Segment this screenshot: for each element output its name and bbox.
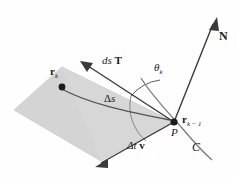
tangent-vector-arrowhead bbox=[80, 61, 93, 72]
figure-container: N ds T θk rk Δs rk − 1 P Δt v C bbox=[0, 0, 237, 179]
arc-length-label-s: s bbox=[111, 92, 115, 104]
point-p-marker bbox=[170, 118, 177, 125]
tangent-vector-label-t: T bbox=[115, 54, 122, 66]
curve-label-text: C bbox=[192, 140, 200, 154]
velocity-vector-label: Δt v bbox=[127, 140, 145, 151]
normal-vector-label-text: N bbox=[219, 29, 228, 43]
angle-label: θk bbox=[154, 62, 162, 76]
angle-arc bbox=[131, 80, 160, 96]
point-rk-label: rk bbox=[50, 66, 58, 80]
point-p-label: P bbox=[171, 127, 178, 138]
normal-vector-arrowhead bbox=[209, 17, 219, 31]
angle-label-subscript: k bbox=[159, 68, 162, 75]
point-rk1-label-subscript: k − 1 bbox=[187, 120, 201, 127]
normal-vector-label: N bbox=[219, 30, 228, 42]
arc-length-label: Δs bbox=[104, 93, 115, 104]
diagram-canvas bbox=[0, 0, 237, 179]
point-rk-marker bbox=[59, 84, 66, 91]
point-rk-label-subscript: k bbox=[55, 72, 58, 79]
tangent-vector-label-ds: ds bbox=[102, 54, 112, 66]
velocity-vector-label-v: v bbox=[139, 139, 145, 151]
point-rk1-label: rk − 1 bbox=[182, 114, 201, 128]
curve-label: C bbox=[192, 141, 200, 153]
velocity-vector-label-dt: Δt bbox=[127, 139, 137, 151]
tangent-vector-label: ds T bbox=[102, 55, 122, 66]
point-p-label-text: P bbox=[171, 126, 178, 138]
normal-vector-line bbox=[174, 24, 213, 122]
